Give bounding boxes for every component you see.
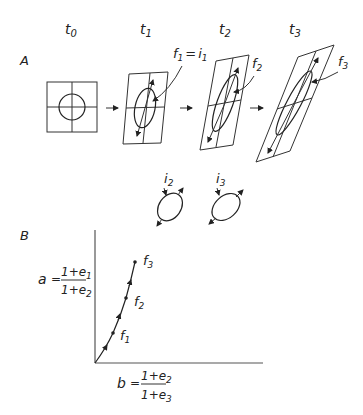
svg-text:t2: t2 [219, 21, 231, 39]
panel-b-label: B [20, 228, 29, 243]
svg-text:=: = [51, 272, 61, 286]
increment-ellipse-i3: i3 [207, 171, 246, 226]
svg-text:i3: i3 [216, 171, 226, 188]
time-label-t1: t1 [140, 21, 152, 39]
diagram-svg: t0 t1 t2 t3 A f1=i1 [0, 0, 363, 415]
svg-text:1+e3: 1+e3 [141, 388, 172, 404]
label-f1: f1 [120, 328, 130, 345]
svg-text:b: b [117, 375, 126, 391]
svg-text:f2: f2 [252, 56, 263, 73]
point-f2 [124, 296, 128, 300]
svg-text:a: a [38, 271, 47, 287]
frame-t2 [200, 55, 249, 150]
increment-ellipse-i2: i2 [152, 171, 187, 226]
svg-text:i2: i2 [164, 171, 174, 188]
frame-t1 [123, 72, 168, 144]
panel-a-label: A [19, 53, 29, 68]
svg-text:1+e2: 1+e2 [141, 369, 172, 385]
deformation-diagram: t0 t1 t2 t3 A f1=i1 [0, 0, 363, 415]
label-f2: f2 [134, 294, 145, 311]
svg-text:t1: t1 [140, 21, 152, 39]
y-axis-label: a = 1+e1 1+e2 [38, 265, 92, 299]
svg-text:t3: t3 [289, 21, 301, 39]
svg-text:t0: t0 [65, 21, 77, 39]
time-label-t3: t3 [289, 21, 301, 39]
time-label-t2: t2 [219, 21, 231, 39]
frame-t0 [47, 82, 97, 132]
svg-text:f3: f3 [338, 54, 349, 71]
point-f1 [111, 331, 115, 335]
svg-text:=: = [130, 376, 140, 390]
x-axis-label: b = 1+e2 1+e3 [117, 369, 172, 404]
svg-text:f1=i1: f1=i1 [173, 46, 208, 63]
svg-text:1+e2: 1+e2 [61, 283, 92, 299]
svg-text:1+e1: 1+e1 [61, 265, 92, 281]
time-label-t0: t0 [65, 21, 77, 39]
frame-t3 [256, 45, 334, 162]
point-f3 [133, 260, 137, 264]
graph-axes [95, 230, 263, 363]
deformation-path [95, 260, 137, 363]
label-f3: f3 [143, 253, 154, 270]
annotation-f1-eq-i1: f1=i1 [153, 46, 208, 101]
